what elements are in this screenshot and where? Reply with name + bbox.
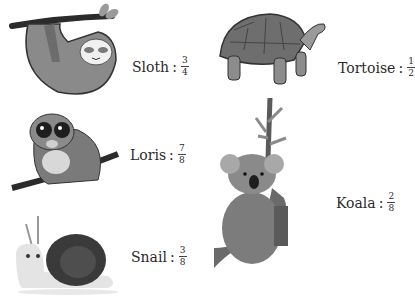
sloth-illustration bbox=[8, 2, 120, 98]
ratio-separator: : bbox=[379, 195, 384, 211]
snail-label: Snail : 3 8 bbox=[131, 246, 187, 267]
denominator: 8 bbox=[179, 156, 185, 165]
denominator: 8 bbox=[180, 258, 186, 267]
numerator: 2 bbox=[389, 192, 395, 201]
numerator: 1 bbox=[408, 57, 414, 66]
snail-illustration bbox=[8, 212, 120, 296]
animal-name: Loris bbox=[130, 147, 166, 163]
denominator: 2 bbox=[408, 69, 414, 78]
ratio-separator: : bbox=[169, 147, 174, 163]
numerator: 7 bbox=[179, 144, 185, 153]
numerator: 3 bbox=[182, 56, 188, 65]
animal-name: Sloth bbox=[132, 59, 169, 75]
koala-label: Koala : 2 8 bbox=[336, 192, 395, 213]
fraction: 1 2 bbox=[407, 57, 415, 78]
tortoise-label: Tortoise : 1 2 bbox=[338, 57, 415, 78]
ratio-separator: : bbox=[170, 249, 175, 265]
denominator: 8 bbox=[389, 204, 395, 213]
numerator: 3 bbox=[180, 246, 186, 255]
animal-name: Snail bbox=[131, 249, 167, 265]
animal-name: Koala bbox=[336, 195, 376, 211]
ratio-separator: : bbox=[172, 59, 177, 75]
loris-illustration bbox=[8, 104, 120, 200]
loris-label: Loris : 7 8 bbox=[130, 144, 186, 165]
sloth-label: Sloth : 3 4 bbox=[132, 56, 189, 77]
fraction: 7 8 bbox=[178, 144, 186, 165]
fraction: 2 8 bbox=[387, 192, 395, 213]
tortoise-illustration bbox=[214, 10, 328, 90]
koala-illustration bbox=[212, 98, 302, 294]
fraction: 3 4 bbox=[181, 56, 189, 77]
ratio-separator: : bbox=[398, 60, 403, 76]
denominator: 4 bbox=[182, 68, 188, 77]
animal-name: Tortoise bbox=[338, 60, 395, 76]
fraction: 3 8 bbox=[179, 246, 187, 267]
